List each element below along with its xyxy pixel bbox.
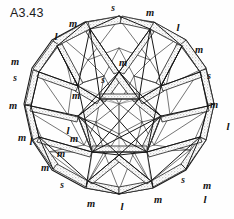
strut-label-m: m (69, 19, 77, 30)
strut-label-m: m (9, 101, 17, 112)
strut-label-l: l (54, 31, 57, 42)
strut-label-m: m (154, 195, 162, 206)
strut-label-s: s (60, 181, 64, 191)
strut-label-l: l (66, 125, 69, 136)
strut-label-m: m (146, 8, 154, 19)
shaded-strut-bodies (25, 16, 214, 194)
strut-label-s: s (207, 72, 211, 82)
strut-label-s: s (111, 4, 115, 14)
strut-label-m: m (195, 45, 203, 56)
strut-label-s: s (181, 176, 185, 186)
strut-label-m: m (11, 57, 19, 68)
strut-label-l: l (29, 136, 32, 147)
strut-label-l: l (226, 121, 229, 132)
strut-label-m: m (119, 58, 127, 69)
strut-label-s: s (13, 74, 17, 84)
strut-label-m: m (210, 100, 218, 111)
strut-label-m: m (41, 163, 49, 174)
strut-label-l: l (203, 194, 206, 205)
strut-label-l: l (120, 201, 123, 212)
strut-label-m: m (70, 134, 78, 145)
strut-label-l: l (176, 22, 179, 33)
strut-label-s: s (101, 76, 105, 86)
strut-label-m: m (87, 199, 95, 210)
strut-label-m: m (18, 133, 26, 144)
figure-container: A3.43 (0, 0, 234, 219)
strut-label-m: m (57, 149, 65, 160)
polyhedral-sphere-drawing (0, 0, 234, 219)
strut-label-m: m (203, 181, 211, 192)
strut-label-m: m (72, 91, 80, 102)
